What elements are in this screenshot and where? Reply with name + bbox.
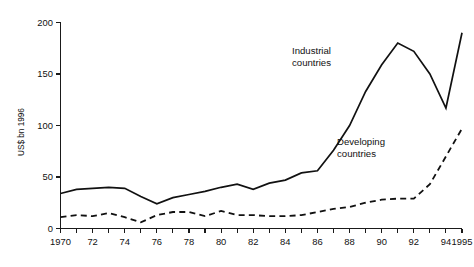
x-tick-label: 80 — [216, 236, 226, 247]
x-tick-label: 90 — [376, 236, 386, 247]
annotation-industrial-countries: Industrialcountries — [292, 45, 331, 68]
x-tick-label: 88 — [344, 236, 354, 247]
y-tick-label: 50 — [43, 171, 53, 182]
x-tick-label: 1995 — [452, 236, 473, 247]
line-chart: 050100150200US$ bn 199619707274767880828… — [0, 0, 474, 267]
y-tick-label: 100 — [37, 120, 53, 131]
x-tick-label: 82 — [248, 236, 258, 247]
x-tick-label: 1970 — [50, 236, 71, 247]
x-tick-label: 86 — [312, 236, 322, 247]
y-tick-label: 0 — [48, 223, 53, 234]
x-tick-label: 84 — [280, 236, 290, 247]
x-tick-label: 92 — [409, 236, 419, 247]
x-tick-label: 72 — [87, 236, 97, 247]
annotation-developing-countries-line2: countries — [337, 148, 376, 159]
y-tick-label: 200 — [37, 17, 53, 28]
x-tick-label: 78 — [184, 236, 194, 247]
y-tick-label: 150 — [37, 68, 53, 79]
annotation-industrial-countries-line2: countries — [292, 57, 331, 68]
annotation-industrial-countries-line1: Industrial — [292, 45, 331, 56]
chart-container: 050100150200US$ bn 199619707274767880828… — [0, 0, 474, 267]
series-developing-countries — [61, 129, 463, 223]
y-axis-title: US$ bn 1996 — [17, 108, 26, 156]
x-tick-label: 76 — [152, 236, 162, 247]
annotation-developing-countries: Developingcountries — [337, 136, 385, 159]
x-tick-label: 94 — [441, 236, 451, 247]
x-tick-label: 74 — [120, 236, 130, 247]
series-industrial-countries — [61, 33, 463, 204]
annotation-developing-countries-line1: Developing — [337, 136, 385, 147]
